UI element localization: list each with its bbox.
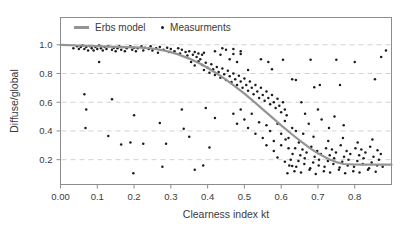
data-point [320,118,323,121]
data-point [232,112,235,115]
data-point [342,124,345,127]
data-point [111,49,114,52]
data-point [358,171,361,174]
data-point [299,154,302,157]
data-point [208,146,211,149]
data-point [297,160,300,163]
y-tick-label: 0.4 [39,125,52,136]
y-axis-label: Diffuse/global [8,69,20,132]
data-point [309,167,312,170]
data-point [85,108,88,111]
data-point [247,69,250,72]
data-point [374,171,377,174]
legend-label-measurements: Measurments [170,22,231,33]
data-point [124,50,127,53]
data-point [114,50,117,53]
data-point [282,101,285,104]
data-point [282,59,285,62]
data-point [343,156,346,159]
data-point [107,135,110,138]
data-point [312,161,315,164]
data-point [380,56,383,59]
data-point [202,164,205,167]
data-point [368,167,371,170]
data-point [247,89,250,92]
data-point [309,59,312,62]
data-point [219,54,222,57]
data-point [313,86,316,89]
data-point [243,77,246,80]
data-point [132,172,135,175]
data-point [83,48,86,51]
data-point [291,78,294,81]
data-point [271,94,274,97]
data-point [249,80,252,83]
data-point [291,127,294,130]
data-point [159,46,162,49]
data-point [84,127,87,130]
data-point [120,143,123,146]
x-tick-label: 0.5 [238,191,251,202]
scatter-plot-figure: 0.000.10.20.30.40.50.60.70.80.20.40.60.8… [0,0,408,229]
data-point [374,78,377,81]
x-axis-label: Clearness index kt [60,208,392,220]
data-point [188,135,191,138]
data-point [228,58,231,61]
data-point [243,118,246,121]
data-point [195,56,198,59]
data-point [149,45,152,48]
data-point [356,160,359,163]
x-tick-label: 0.7 [311,191,324,202]
data-point [166,46,169,49]
data-point [228,75,231,78]
data-point [111,98,114,101]
data-point [96,48,99,51]
data-point [347,158,350,161]
data-point [133,114,136,117]
data-point [265,90,268,93]
data-point [295,79,298,82]
data-point [287,147,290,150]
data-point [98,61,101,64]
x-tick-label: 0.6 [275,191,288,202]
data-point [254,133,257,136]
data-point [159,122,162,125]
data-point [284,108,287,111]
data-point [161,166,164,169]
data-point [356,141,359,144]
data-point [214,50,217,53]
data-point [333,115,336,118]
data-point [339,84,342,87]
data-point [214,117,217,120]
data-point [227,69,230,72]
data-point [288,164,291,167]
data-point [83,93,86,96]
data-point [239,80,242,83]
data-point [300,171,303,174]
data-point [328,154,331,157]
data-point [170,48,173,51]
x-tick-label: 0.8 [348,191,361,202]
data-point [305,151,308,154]
x-tick-label: 0.2 [127,191,140,202]
data-point [258,121,261,124]
data-point [184,51,187,54]
data-point [349,153,352,156]
data-point [223,73,226,76]
x-tick-label: 0.1 [91,191,104,202]
data-point [256,90,259,93]
data-point [360,148,363,151]
x-tick-label: 0.00 [51,191,70,202]
data-point [380,153,383,156]
data-point [254,84,257,87]
data-point [362,157,365,160]
data-point [280,133,283,136]
data-point [286,172,289,175]
data-point [157,51,160,54]
data-point [280,144,283,147]
data-point [370,161,373,164]
data-point [353,61,356,64]
data-point [265,124,268,127]
data-point [378,158,381,161]
data-point [236,61,239,64]
